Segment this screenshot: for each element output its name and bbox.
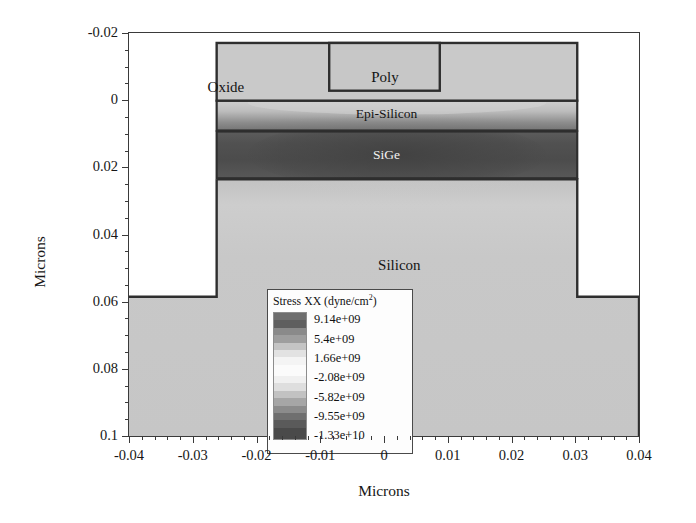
y-axis-tick — [122, 33, 129, 34]
y-axis-minor-tick — [125, 218, 129, 219]
x-axis-tick-label: 0 — [380, 447, 387, 464]
x-axis-tick-label: 0.02 — [499, 447, 524, 464]
x-axis-tick-label: -0.02 — [241, 447, 271, 464]
x-axis-tick-label: 0.04 — [626, 447, 651, 464]
y-axis-minor-tick — [125, 117, 129, 118]
y-axis-tick-label: 0 — [111, 91, 118, 108]
y-axis-tick-label: -0.02 — [88, 24, 118, 41]
y-axis-minor-tick — [125, 251, 129, 252]
colorbar-value: -1.33e+10 — [314, 429, 365, 441]
stress-contour-figure: Microns — [0, 0, 696, 523]
y-axis-tick-label: 0.06 — [93, 293, 118, 310]
x-axis-minor-tick — [269, 436, 270, 440]
plot-area: Oxide Poly Epi-Silicon SiGe Silicon Stre… — [128, 32, 640, 437]
y-axis-minor-tick — [125, 419, 129, 420]
y-axis-minor-tick — [125, 352, 129, 353]
colorbar-value: -2.08e+09 — [314, 371, 365, 383]
x-axis-tick — [448, 436, 449, 443]
x-axis-tick-label: 0.01 — [435, 447, 460, 464]
x-axis-minor-tick — [473, 436, 474, 440]
y-axis-minor-tick — [125, 268, 129, 269]
x-axis-minor-tick — [218, 436, 219, 440]
y-axis-title: Microns — [31, 236, 49, 288]
y-axis-tick — [122, 100, 129, 101]
x-axis-minor-tick — [563, 436, 564, 440]
x-axis-minor-tick — [550, 436, 551, 440]
y-axis-tick-label: 0.1 — [100, 427, 118, 444]
colorbar-value: 5.4e+09 — [314, 333, 365, 345]
legend-title-main: Stress XX (dyne/cm — [273, 294, 369, 308]
x-axis-minor-tick — [371, 436, 372, 440]
x-axis-minor-tick — [155, 436, 156, 440]
x-axis-tick-label: -0.01 — [305, 447, 335, 464]
legend-title-tail: ) — [373, 294, 377, 308]
colorbar-value-list: 9.14e+09 5.4e+09 1.66e+09 -2.08e+09 -5.8… — [314, 312, 365, 442]
y-axis-tick-label: 0.02 — [93, 158, 118, 175]
x-axis-tick — [384, 436, 385, 443]
legend-title: Stress XX (dyne/cm2) — [273, 293, 408, 308]
y-axis-minor-tick — [125, 386, 129, 387]
x-axis-minor-tick — [295, 436, 296, 440]
x-axis-minor-tick — [180, 436, 181, 440]
x-axis-minor-tick — [626, 436, 627, 440]
region-poly — [329, 43, 440, 91]
x-axis-minor-tick — [397, 436, 398, 440]
x-axis-tick-label: -0.03 — [178, 447, 208, 464]
x-axis-minor-tick — [461, 436, 462, 440]
y-axis-minor-tick — [125, 285, 129, 286]
x-axis-minor-tick — [244, 436, 245, 440]
x-axis-minor-tick — [422, 436, 423, 440]
x-axis-tick — [320, 436, 321, 443]
x-axis-minor-tick — [499, 436, 500, 440]
x-axis-tick — [639, 436, 640, 443]
y-axis-tick — [122, 369, 129, 370]
y-axis-minor-tick — [125, 184, 129, 185]
x-axis-minor-tick — [410, 436, 411, 440]
x-axis-tick-label: 0.03 — [563, 447, 588, 464]
x-axis-tick — [575, 436, 576, 443]
y-axis-tick — [122, 235, 129, 236]
colorbar-value: -9.55e+09 — [314, 410, 365, 422]
y-axis-minor-tick — [125, 50, 129, 51]
x-axis-minor-tick — [308, 436, 309, 440]
x-axis-minor-tick — [206, 436, 207, 440]
x-axis-minor-tick — [588, 436, 589, 440]
x-axis-tick-label: -0.04 — [114, 447, 144, 464]
x-axis-minor-tick — [486, 436, 487, 440]
colorbar-legend: Stress XX (dyne/cm2) 9.14e+09 5.4e+09 1.… — [267, 289, 413, 454]
y-axis-minor-tick — [125, 151, 129, 152]
y-axis-tick-label: 0.08 — [93, 360, 118, 377]
colorbar-value: 1.66e+09 — [314, 352, 365, 364]
x-axis-tick — [129, 436, 130, 443]
y-axis-minor-tick — [125, 318, 129, 319]
x-axis-tick — [512, 436, 513, 443]
x-axis-tick — [193, 436, 194, 443]
y-axis-tick-label: 0.04 — [93, 226, 118, 243]
y-axis-minor-tick — [125, 67, 129, 68]
x-axis-minor-tick — [346, 436, 347, 440]
x-axis-minor-tick — [524, 436, 525, 440]
y-axis-tick — [122, 167, 129, 168]
x-axis-minor-tick — [333, 436, 334, 440]
y-axis-minor-tick — [125, 335, 129, 336]
colorbar-gradient-swatch — [273, 312, 307, 440]
x-axis-minor-tick — [614, 436, 615, 440]
y-axis-minor-tick — [125, 83, 129, 84]
colorbar-value: 9.14e+09 — [314, 313, 365, 325]
y-axis-tick — [122, 302, 129, 303]
y-axis-minor-tick — [125, 201, 129, 202]
y-axis-minor-tick — [125, 402, 129, 403]
x-axis-minor-tick — [601, 436, 602, 440]
x-axis-minor-tick — [537, 436, 538, 440]
x-axis-tick — [257, 436, 258, 443]
x-axis-minor-tick — [231, 436, 232, 440]
x-axis-minor-tick — [282, 436, 283, 440]
y-axis-minor-tick — [125, 134, 129, 135]
x-axis-minor-tick — [359, 436, 360, 440]
y-axis-tick — [122, 436, 129, 437]
colorbar-value: -5.82e+09 — [314, 391, 365, 403]
x-axis-title: Microns — [128, 482, 640, 500]
x-axis-minor-tick — [435, 436, 436, 440]
x-axis-minor-tick — [167, 436, 168, 440]
x-axis-minor-tick — [142, 436, 143, 440]
